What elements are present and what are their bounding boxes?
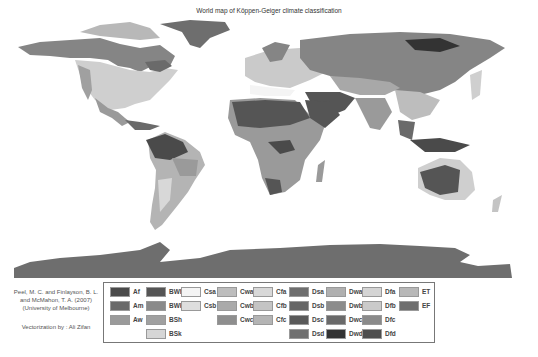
credits-line-3: (University of Melbourne) [6, 304, 106, 312]
credits: Peel, M. C. and Finlayson, B. L. and McM… [6, 288, 106, 312]
legend-label-cfb: Cfb [276, 301, 287, 311]
legend-label-bsk: BSk [169, 329, 182, 339]
legend-swatch-dfd [362, 329, 382, 339]
legend-swatch-af [110, 287, 130, 297]
legend-swatch-dsd [289, 329, 309, 339]
legend-label-am: Am [133, 301, 143, 311]
legend-label-dwa: Dwa [349, 287, 362, 297]
legend-swatch-dsb [289, 301, 309, 311]
legend-swatch-csa [181, 287, 201, 297]
legend-label-dfc: Dfc [385, 315, 395, 325]
vectorization-credit: Vectorization by : Ali Zifan [6, 324, 106, 330]
legend-swatch-bsk [146, 329, 166, 339]
legend-swatch-dsc [289, 315, 309, 325]
legend-label-dfd: Dfd [385, 329, 396, 339]
legend-label-af: Af [133, 287, 140, 297]
legend-swatch-cfc [253, 315, 273, 325]
legend-swatch-cfb [253, 301, 273, 311]
legend-label-dwb: Dwb [349, 301, 363, 311]
legend-swatch-bwk [146, 301, 166, 311]
legend-swatch-aw [110, 315, 130, 325]
legend-swatch-dwa [326, 287, 346, 297]
legend-label-dfa: Dfa [385, 287, 395, 297]
legend-label-dwc: Dwc [349, 315, 362, 325]
legend-label-aw: Aw [133, 315, 143, 325]
legend-label-cfc: Cfc [276, 315, 286, 325]
legend-swatch-cwa [217, 287, 237, 297]
legend-label-dsd: Dsd [312, 329, 324, 339]
legend-swatch-dfb [362, 301, 382, 311]
legend-swatch-cfa [253, 287, 273, 297]
legend-label-dsb: Dsb [312, 301, 324, 311]
legend-label-dwd: Dwd [349, 329, 363, 339]
legend-swatch-dwd [326, 329, 346, 339]
legend-swatch-bwh [146, 287, 166, 297]
legend-swatch-csb [181, 301, 201, 311]
legend-swatch-et [399, 287, 419, 297]
credits-line-2: and McMahon, T. A. (2007) [6, 296, 106, 304]
legend-label-dfb: Dfb [385, 301, 396, 311]
legend-swatch-cwb [217, 301, 237, 311]
legend-label-dsc: Dsc [312, 315, 324, 325]
antarctica [14, 242, 512, 278]
legend-swatch-dwb [326, 301, 346, 311]
credits-line-1: Peel, M. C. and Finlayson, B. L. [6, 288, 106, 296]
legend-label-cfa: Cfa [276, 287, 286, 297]
south-america [146, 132, 205, 230]
climate-legend: AfAmAwBWhBWkBShBSkCsaCsbCwaCwbCwcCfaCfbC… [103, 282, 435, 343]
legend-swatch-ef [399, 301, 419, 311]
asia [300, 32, 505, 152]
legend-label-ef: EF [422, 301, 430, 311]
north-america [18, 20, 230, 130]
legend-swatch-cwc [217, 315, 237, 325]
legend-swatch-dsa [289, 287, 309, 297]
legend-label-csa: Csa [204, 287, 216, 297]
legend-label-cwa: Cwa [240, 287, 253, 297]
legend-label-bsh: BSh [169, 315, 182, 325]
legend-swatch-bsh [146, 315, 166, 325]
legend-swatch-dwc [326, 315, 346, 325]
legend-label-csb: Csb [204, 301, 216, 311]
legend-label-cwc: Cwc [240, 315, 253, 325]
legend-label-cwb: Cwb [240, 301, 254, 311]
legend-swatch-dfa [362, 287, 382, 297]
legend-label-dsa: Dsa [312, 287, 324, 297]
legend-label-et: ET [422, 287, 430, 297]
legend-swatch-dfc [362, 315, 382, 325]
legend-swatch-am [110, 301, 130, 311]
australia [418, 158, 502, 212]
